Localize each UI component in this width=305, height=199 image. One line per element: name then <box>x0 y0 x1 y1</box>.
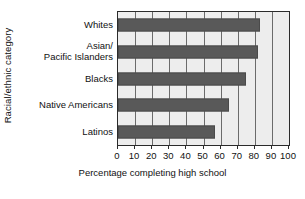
x-axis-tick-label: 60 <box>214 150 225 162</box>
y-axis-title-text: Racial/ethnic category <box>3 27 14 123</box>
x-axis-tick-mark <box>134 145 135 149</box>
y-axis-tick-label: Asian/Pacific Islanders <box>44 40 113 62</box>
x-axis-title: Percentage completing high school <box>0 167 305 178</box>
x-axis-tick-mark <box>151 145 152 149</box>
x-axis-tick-mark <box>271 145 272 149</box>
x-axis-tick-mark <box>168 145 169 149</box>
x-axis-tick-mark <box>185 145 186 149</box>
x-axis-tick-label: 100 <box>280 150 296 162</box>
x-axis-tick-mark <box>117 145 118 149</box>
bar <box>118 125 215 138</box>
y-axis-title: Racial/ethnic category <box>0 0 16 150</box>
bar <box>118 99 229 112</box>
x-axis-tick-labels: 0102030405060708090100 <box>117 150 290 163</box>
bar <box>118 72 246 85</box>
bar-chart-figure: Racial/ethnic category WhitesAsian/Pacif… <box>0 0 305 199</box>
x-axis-tick-label: 40 <box>180 150 191 162</box>
plot-area <box>117 11 290 146</box>
x-axis-tick-mark <box>220 145 221 149</box>
bar <box>118 19 260 32</box>
y-axis-tick-label-line: Whites <box>84 19 113 30</box>
x-axis-tick-label: 0 <box>114 150 119 162</box>
x-axis-tick-label: 20 <box>146 150 157 162</box>
y-axis-tick-label-line: Native Americans <box>39 99 113 110</box>
x-axis-tick-mark <box>237 145 238 149</box>
y-axis-tick-label: Latinos <box>82 125 113 136</box>
x-axis-tick-mark <box>254 145 255 149</box>
x-axis-tick-label: 90 <box>266 150 277 162</box>
y-axis-tick-labels: WhitesAsian/Pacific IslandersBlacksNativ… <box>16 11 116 144</box>
y-axis-tick-label-line: Latinos <box>82 125 113 136</box>
x-axis-tick-mark <box>288 145 289 149</box>
y-axis-tick-label-line: Asian/ <box>44 40 113 51</box>
x-axis-tick-label: 10 <box>129 150 140 162</box>
x-axis-tick-mark <box>203 145 204 149</box>
bar-series <box>118 12 289 145</box>
y-axis-tick-label: Whites <box>84 19 113 30</box>
y-axis-tick-label: Blacks <box>85 72 113 83</box>
bar <box>118 45 258 58</box>
y-axis-tick-label: Native Americans <box>39 99 113 110</box>
y-axis-tick-label-line: Blacks <box>85 72 113 83</box>
x-axis-tick-label: 70 <box>231 150 242 162</box>
y-axis-tick-label-line: Pacific Islanders <box>44 51 113 62</box>
x-axis-tick-label: 30 <box>163 150 174 162</box>
x-axis-tick-label: 50 <box>197 150 208 162</box>
x-axis-tick-label: 80 <box>249 150 260 162</box>
